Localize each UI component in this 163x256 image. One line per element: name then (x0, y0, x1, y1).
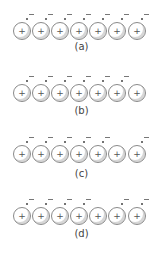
electron-icon (82, 137, 92, 144)
electron-icon (82, 76, 92, 83)
electron-icon (44, 76, 54, 83)
negative-charge-icon (86, 14, 91, 15)
positive-ion: + (70, 84, 88, 102)
negative-charge-icon (48, 137, 53, 138)
positive-ion: + (32, 145, 50, 163)
plus-sign-icon: + (14, 208, 30, 224)
positive-ion: + (70, 145, 88, 163)
plus-sign-icon: + (14, 85, 30, 101)
positive-ion: + (32, 22, 50, 40)
negative-charge-icon (105, 14, 110, 15)
electron-dot-icon (83, 18, 85, 20)
positive-ion: + (108, 84, 126, 102)
negative-charge-icon (144, 199, 149, 200)
plus-sign-icon: + (52, 208, 68, 224)
positive-ion: + (51, 84, 69, 102)
plus-sign-icon: + (129, 208, 145, 224)
electron-icon (101, 76, 111, 83)
positive-ion: + (128, 207, 146, 225)
electron-dot-icon (45, 18, 47, 20)
positive-ion: + (128, 84, 146, 102)
negative-charge-icon (67, 76, 72, 77)
electron-icon (44, 137, 54, 144)
plus-sign-icon: + (52, 146, 68, 162)
electron-icon (63, 76, 73, 83)
electron-icon (101, 137, 111, 144)
positive-ion: + (108, 207, 126, 225)
electron-dot-icon (141, 203, 143, 205)
negative-charge-icon (144, 137, 149, 138)
plus-sign-icon: + (14, 23, 30, 39)
plus-sign-icon: + (71, 146, 87, 162)
plus-sign-icon: + (33, 85, 49, 101)
panel-label: (d) (0, 228, 163, 239)
negative-charge-icon (124, 199, 129, 200)
positive-ion: + (108, 145, 126, 163)
positive-ion: + (89, 145, 107, 163)
positive-ion: + (13, 145, 31, 163)
plus-sign-icon: + (52, 85, 68, 101)
negative-charge-icon (48, 199, 53, 200)
positive-ion: + (13, 84, 31, 102)
negative-charge-icon (29, 76, 34, 77)
plus-sign-icon: + (90, 23, 106, 39)
plus-sign-icon: + (71, 23, 87, 39)
plus-sign-icon: + (90, 146, 106, 162)
negative-charge-icon (48, 14, 53, 15)
negative-charge-icon (29, 14, 34, 15)
electron-dot-icon (26, 80, 28, 82)
positive-ion: + (89, 22, 107, 40)
electron-dot-icon (102, 141, 104, 143)
plus-sign-icon: + (33, 23, 49, 39)
negative-charge-icon (67, 14, 72, 15)
electron-icon (140, 14, 150, 21)
negative-charge-icon (86, 76, 91, 77)
negative-charge-icon (105, 76, 110, 77)
panel-label: (a) (0, 41, 163, 52)
electron-dot-icon (45, 203, 47, 205)
electron-dot-icon (26, 141, 28, 143)
negative-charge-icon (48, 76, 53, 77)
plus-sign-icon: + (129, 85, 145, 101)
negative-charge-icon (124, 14, 129, 15)
electron-dot-icon (83, 80, 85, 82)
electron-icon (120, 14, 130, 21)
electron-dot-icon (64, 141, 66, 143)
plus-sign-icon: + (129, 146, 145, 162)
plus-sign-icon: + (109, 208, 125, 224)
electron-icon (44, 14, 54, 21)
electron-icon (25, 76, 35, 83)
positive-ion: + (70, 22, 88, 40)
electron-dot-icon (64, 203, 66, 205)
plus-sign-icon: + (14, 146, 30, 162)
electron-dot-icon (121, 203, 123, 205)
positive-ion: + (13, 22, 31, 40)
positive-ion: + (51, 145, 69, 163)
positive-ion: + (89, 207, 107, 225)
positive-ion: + (51, 207, 69, 225)
plus-sign-icon: + (33, 146, 49, 162)
positive-ion: + (89, 84, 107, 102)
plus-sign-icon: + (90, 85, 106, 101)
negative-charge-icon (29, 199, 34, 200)
electron-dot-icon (102, 80, 104, 82)
electron-icon (63, 14, 73, 21)
electron-icon (44, 199, 54, 206)
electron-icon (140, 137, 150, 144)
electron-dot-icon (26, 18, 28, 20)
electron-icon (25, 199, 35, 206)
plus-sign-icon: + (52, 23, 68, 39)
plus-sign-icon: + (90, 208, 106, 224)
electron-icon (25, 137, 35, 144)
electron-icon (82, 199, 92, 206)
positive-ion: + (128, 145, 146, 163)
positive-ion: + (13, 207, 31, 225)
negative-charge-icon (86, 137, 91, 138)
electron-dot-icon (64, 18, 66, 20)
panel-label: (c) (0, 168, 163, 179)
electron-icon (82, 14, 92, 21)
plus-sign-icon: + (71, 85, 87, 101)
electron-icon (140, 199, 150, 206)
negative-charge-icon (29, 137, 34, 138)
negative-charge-icon (105, 137, 110, 138)
